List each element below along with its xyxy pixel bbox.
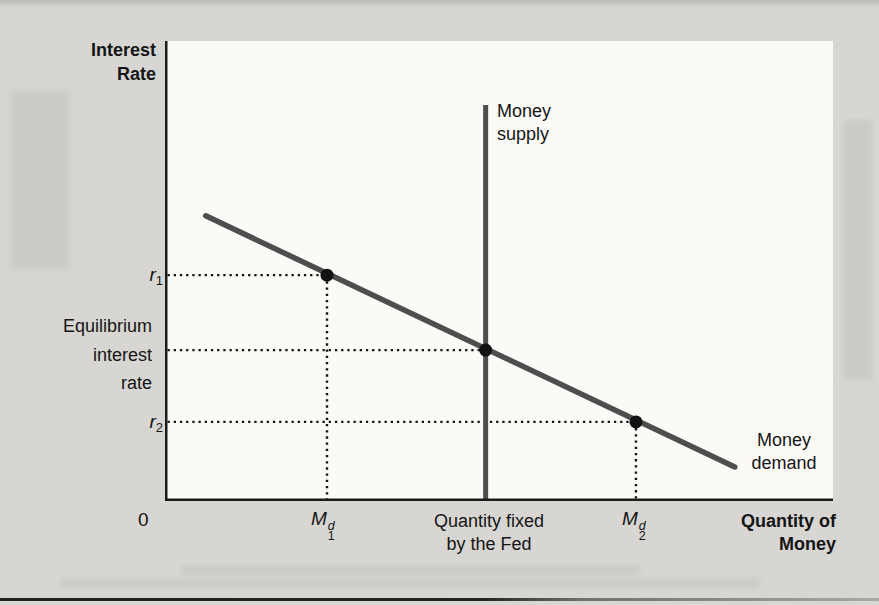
money-demand-label-line1: Money — [745, 429, 823, 452]
quantity-fixed-line1: Quantity fixed — [424, 510, 554, 533]
bleedthrough-stripe — [180, 565, 640, 575]
equilibrium-label-line2: interest — [63, 341, 152, 370]
origin-tick-label: 0 — [138, 508, 149, 531]
point-r1 — [320, 269, 333, 282]
y-axis-title-line1: Interest — [91, 38, 156, 62]
equilibrium-interest-rate-label: Equilibrium interest rate — [63, 312, 152, 398]
r1-tick-label: r1 — [149, 263, 163, 292]
m1-base: M — [311, 508, 327, 529]
page-bottom-rule — [0, 598, 879, 601]
equilibrium-label-line3: rate — [63, 369, 152, 398]
bleedthrough-stripe — [60, 578, 760, 588]
x-axis-title: Quantity of Money — [741, 510, 836, 556]
money-supply-label: Money supply — [497, 100, 551, 146]
quantity-fixed-line2: by the Fed — [424, 533, 554, 556]
money-supply-label-line2: supply — [497, 123, 551, 146]
m2d-tick-label: Md2 — [622, 507, 646, 541]
money-supply-label-line1: Money — [497, 100, 551, 123]
m2-subscript: 2 — [639, 531, 646, 541]
r2-subscript: 2 — [156, 420, 163, 435]
m1-scripts: d1 — [328, 521, 335, 541]
x-axis-title-line2: Money — [741, 533, 836, 556]
curve-money-demand — [206, 216, 735, 467]
equilibrium-label-line1: Equilibrium — [63, 312, 152, 341]
m2-base: M — [622, 508, 638, 529]
scan-top-shade — [0, 0, 879, 8]
y-axis-title: Interest Rate — [91, 38, 156, 86]
quantity-fixed-label: Quantity fixed by the Fed — [424, 510, 554, 556]
money-demand-label: Money demand — [745, 429, 823, 475]
m2-scripts: d2 — [639, 521, 646, 541]
bleedthrough-stripe — [10, 90, 70, 270]
m1d-tick-label: Md1 — [311, 507, 335, 541]
m1-subscript: 1 — [328, 531, 335, 541]
bleedthrough-stripe — [843, 120, 873, 380]
r2-tick-label: r2 — [149, 410, 163, 439]
x-axis-title-line1: Quantity of — [741, 510, 836, 533]
r1-subscript: 1 — [156, 273, 163, 288]
y-axis-title-line2: Rate — [91, 62, 156, 86]
point-equilibrium — [479, 344, 492, 357]
point-r2 — [629, 415, 642, 428]
textbook-figure-money-market: Interest Rate Quantity of Money Money su… — [0, 0, 879, 605]
money-demand-label-line2: demand — [745, 452, 823, 475]
